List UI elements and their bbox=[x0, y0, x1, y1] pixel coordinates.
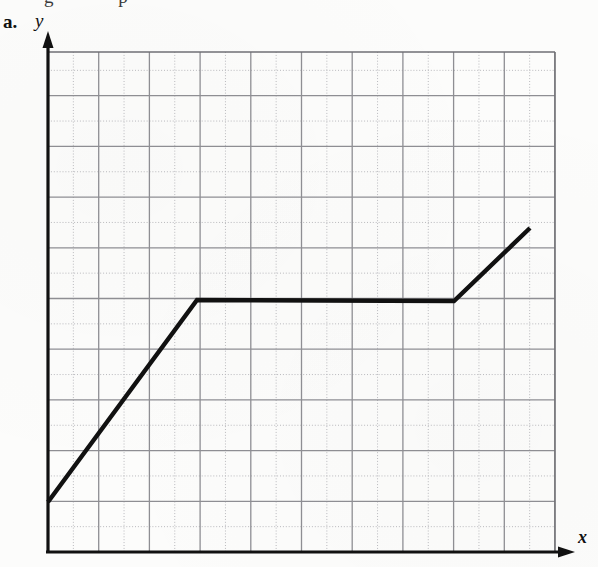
x-axis bbox=[46, 547, 575, 558]
graph-line bbox=[48, 228, 530, 502]
graph-plot bbox=[0, 0, 598, 567]
y-axis bbox=[43, 31, 54, 552]
